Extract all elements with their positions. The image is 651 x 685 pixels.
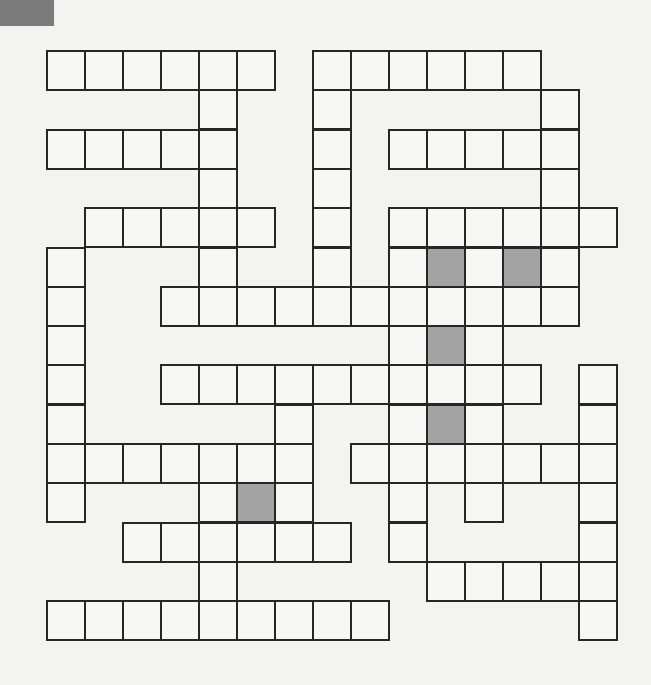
crossword-cell[interactable] (350, 286, 390, 327)
crossword-cell[interactable] (198, 286, 238, 327)
crossword-cell[interactable] (274, 404, 314, 445)
crossword-cell[interactable] (122, 50, 162, 91)
crossword-cell[interactable] (46, 364, 86, 405)
crossword-cell[interactable] (426, 561, 466, 602)
crossword-cell[interactable] (578, 207, 618, 248)
crossword-cell[interactable] (312, 247, 352, 288)
crossword-cell[interactable] (540, 247, 580, 288)
crossword-cell[interactable] (502, 561, 542, 602)
crossword-cell[interactable] (464, 247, 504, 288)
crossword-cell[interactable] (198, 600, 238, 641)
crossword-cell[interactable] (84, 600, 124, 641)
crossword-cell[interactable] (236, 364, 276, 405)
crossword-cell[interactable] (46, 404, 86, 445)
crossword-cell[interactable] (160, 50, 200, 91)
crossword-cell-shaded[interactable] (426, 404, 466, 445)
crossword-cell[interactable] (160, 443, 200, 484)
crossword-cell[interactable] (464, 482, 504, 523)
crossword-cell[interactable] (540, 443, 580, 484)
crossword-cell[interactable] (236, 600, 276, 641)
crossword-cell[interactable] (312, 522, 352, 563)
crossword-cell[interactable] (274, 443, 314, 484)
crossword-cell[interactable] (464, 443, 504, 484)
crossword-cell[interactable] (160, 207, 200, 248)
crossword-cell[interactable] (312, 600, 352, 641)
crossword-cell[interactable] (388, 522, 428, 563)
crossword-cell[interactable] (198, 561, 238, 602)
crossword-cell[interactable] (160, 129, 200, 170)
crossword-cell[interactable] (388, 50, 428, 91)
crossword-cell[interactable] (540, 561, 580, 602)
crossword-cell[interactable] (464, 50, 504, 91)
crossword-cell[interactable] (122, 600, 162, 641)
crossword-cell[interactable] (274, 364, 314, 405)
crossword-cell[interactable] (350, 600, 390, 641)
crossword-cell[interactable] (578, 364, 618, 405)
crossword-cell[interactable] (122, 129, 162, 170)
crossword-cell[interactable] (502, 443, 542, 484)
crossword-cell[interactable] (312, 89, 352, 130)
crossword-cell[interactable] (46, 443, 86, 484)
crossword-cell[interactable] (46, 247, 86, 288)
crossword-cell[interactable] (388, 404, 428, 445)
crossword-cell[interactable] (198, 207, 238, 248)
crossword-cell[interactable] (236, 50, 276, 91)
crossword-cell[interactable] (160, 286, 200, 327)
crossword-cell[interactable] (46, 50, 86, 91)
crossword-cell[interactable] (312, 286, 352, 327)
crossword-cell[interactable] (388, 286, 428, 327)
crossword-cell[interactable] (388, 207, 428, 248)
crossword-cell-shaded[interactable] (426, 247, 466, 288)
crossword-cell[interactable] (274, 600, 314, 641)
crossword-cell[interactable] (540, 207, 580, 248)
crossword-cell[interactable] (84, 443, 124, 484)
crossword-cell[interactable] (388, 129, 428, 170)
crossword-cell[interactable] (502, 286, 542, 327)
crossword-cell[interactable] (46, 325, 86, 366)
crossword-cell[interactable] (578, 600, 618, 641)
crossword-cell[interactable] (46, 482, 86, 523)
crossword-cell[interactable] (198, 482, 238, 523)
crossword-cell[interactable] (464, 207, 504, 248)
crossword-cell[interactable] (464, 404, 504, 445)
crossword-cell[interactable] (274, 522, 314, 563)
crossword-cell[interactable] (274, 286, 314, 327)
crossword-cell[interactable] (236, 522, 276, 563)
crossword-cell[interactable] (540, 168, 580, 209)
crossword-cell[interactable] (312, 207, 352, 248)
crossword-cell-shaded[interactable] (236, 482, 276, 523)
crossword-cell[interactable] (578, 522, 618, 563)
crossword-cell[interactable] (464, 561, 504, 602)
crossword-cell[interactable] (540, 89, 580, 130)
crossword-cell[interactable] (578, 404, 618, 445)
crossword-cell[interactable] (426, 50, 466, 91)
crossword-cell[interactable] (46, 129, 86, 170)
crossword-cell[interactable] (160, 364, 200, 405)
crossword-cell[interactable] (464, 325, 504, 366)
crossword-cell[interactable] (312, 129, 352, 170)
crossword-cell[interactable] (502, 364, 542, 405)
crossword-cell[interactable] (502, 50, 542, 91)
crossword-cell[interactable] (122, 443, 162, 484)
crossword-cell[interactable] (160, 522, 200, 563)
crossword-cell[interactable] (198, 247, 238, 288)
crossword-cell[interactable] (350, 443, 390, 484)
crossword-cell[interactable] (160, 600, 200, 641)
crossword-cell[interactable] (578, 482, 618, 523)
crossword-cell[interactable] (388, 482, 428, 523)
crossword-cell-shaded[interactable] (502, 247, 542, 288)
crossword-cell[interactable] (388, 325, 428, 366)
crossword-cell[interactable] (388, 247, 428, 288)
crossword-cell[interactable] (84, 207, 124, 248)
crossword-cell[interactable] (312, 364, 352, 405)
crossword-cell[interactable] (350, 364, 390, 405)
crossword-cell[interactable] (312, 50, 352, 91)
crossword-cell[interactable] (388, 364, 428, 405)
crossword-cell[interactable] (198, 443, 238, 484)
crossword-cell[interactable] (198, 129, 238, 170)
crossword-cell[interactable] (84, 50, 124, 91)
crossword-cell-shaded[interactable] (426, 325, 466, 366)
crossword-cell[interactable] (198, 168, 238, 209)
crossword-cell[interactable] (578, 443, 618, 484)
crossword-cell[interactable] (84, 129, 124, 170)
